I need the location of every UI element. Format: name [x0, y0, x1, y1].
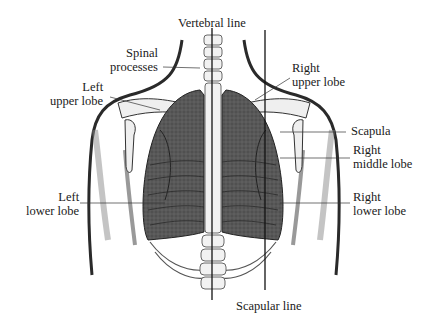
label-left-upper-lobe: Left upper lobe	[50, 80, 103, 108]
label-right-middle-lobe: Right middle lobe	[353, 143, 412, 171]
label-spinal-processes: Spinal processes	[110, 46, 158, 74]
label-vertebral-line: Vertebral line	[178, 16, 246, 30]
thorax-diagram: Vertebral line Spinal processes Left upp…	[0, 0, 433, 333]
label-right-lower-lobe: Right lower lobe	[353, 190, 406, 218]
label-left-lower-lobe: Left lower lobe	[26, 190, 79, 218]
label-right-upper-lobe: Right upper lobe	[292, 61, 345, 89]
label-scapula: Scapula	[351, 124, 391, 138]
label-scapular-line: Scapular line	[236, 299, 302, 313]
